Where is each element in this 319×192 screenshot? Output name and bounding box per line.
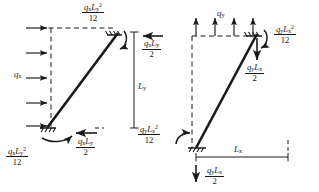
right-dimension-label-lx: Lx: [234, 139, 242, 155]
right-bottom-fixed-support-icon: [188, 148, 206, 152]
right-inclined-member: [196, 34, 257, 148]
left-load-label-qx: qx: [14, 64, 22, 80]
left-bottom-shear-label: qxLy 2: [76, 137, 95, 157]
left-top-moment-label: qxLy2 12: [82, 2, 104, 22]
right-top-moment-arrow: [261, 30, 267, 48]
left-inclined-member: [47, 33, 118, 128]
left-bottom-fixed-support-icon: [40, 128, 56, 132]
diagram-vector-layer: [0, 0, 319, 192]
right-load-label-qy: qy: [217, 3, 225, 19]
figure-canvas: qx qxLy2 12 qxLy 2 Ly qxLy2 12 qxLy 2 qy: [0, 0, 319, 192]
right-reference-frame: [192, 36, 252, 148]
right-bottom-moment-label: qyLx2 12: [138, 124, 160, 144]
left-dimension-label-ly: Ly: [138, 76, 146, 92]
right-top-moment-label: qyLx2 12: [274, 24, 296, 44]
left-top-shear-label: qxLy 2: [142, 39, 161, 59]
left-load-arrows-qx: [26, 28, 47, 126]
left-reference-frame: [40, 28, 115, 128]
right-top-fixed-support-icon: [245, 32, 263, 36]
left-bottom-moment-arrow: [42, 136, 72, 142]
right-bottom-moment-arrow: [176, 133, 190, 144]
right-diagram-group: [176, 18, 288, 182]
left-top-moment-arrow: [120, 31, 126, 49]
left-bottom-moment-label: qxLy2 12: [6, 146, 28, 166]
right-load-arrows-qy: [196, 18, 253, 36]
right-bottom-shear-label: qyLx 2: [205, 166, 224, 186]
right-top-shear-label: qyLx 2: [245, 63, 264, 83]
left-top-fixed-support-icon: [106, 31, 123, 35]
